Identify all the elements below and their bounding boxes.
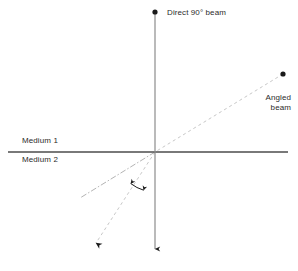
refraction-diagram: Direct 90° beam Angled beam Medium 1 Med… bbox=[0, 0, 298, 271]
label-direct-beam: Direct 90° beam bbox=[167, 8, 226, 18]
label-medium-1: Medium 1 bbox=[22, 136, 58, 146]
refracted-beam-line bbox=[96, 152, 155, 243]
normal-source-dot bbox=[152, 9, 157, 14]
angled-source-dot bbox=[280, 71, 285, 76]
refraction-angle-arc bbox=[131, 184, 144, 191]
label-medium-2: Medium 2 bbox=[22, 155, 58, 165]
label-angled-beam: Angled beam bbox=[213, 93, 291, 113]
incident-beam-line bbox=[155, 74, 283, 152]
dash-dot-ray-line bbox=[80, 152, 155, 198]
